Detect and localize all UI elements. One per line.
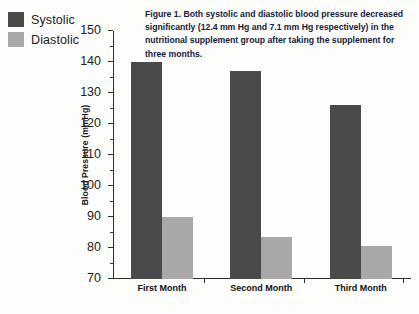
bar-systolic-2 bbox=[230, 71, 261, 279]
y-tick-major: 90 bbox=[108, 216, 113, 217]
bar-systolic-1 bbox=[131, 62, 162, 279]
bar-diastolic-2 bbox=[261, 237, 292, 279]
y-tick-major: 150 bbox=[108, 30, 113, 31]
x-axis-group-label: Third Month bbox=[335, 283, 387, 293]
y-tick-major: 140 bbox=[108, 61, 113, 62]
y-tick-major: 70 bbox=[108, 278, 113, 279]
y-tick-minor bbox=[110, 139, 113, 140]
y-tick-minor bbox=[110, 201, 113, 202]
y-tick-label: 110 bbox=[81, 147, 101, 161]
y-tick-label: 130 bbox=[80, 85, 101, 99]
y-axis-line bbox=[113, 31, 114, 279]
y-tick-minor bbox=[110, 77, 113, 78]
x-tick bbox=[204, 279, 205, 283]
x-tick bbox=[403, 279, 404, 283]
legend-label-systolic: Systolic bbox=[31, 13, 75, 27]
y-tick-label: 90 bbox=[87, 209, 101, 223]
y-tick-label: 120 bbox=[80, 116, 101, 130]
y-tick-label: 80 bbox=[87, 240, 101, 254]
bar-systolic-3 bbox=[330, 105, 361, 279]
y-tick-minor bbox=[110, 108, 113, 109]
y-tick-major: 110 bbox=[108, 154, 113, 155]
x-axis-group-label: Second Month bbox=[230, 283, 292, 293]
y-tick-minor bbox=[110, 170, 113, 171]
chart-plot-area: 708090100110120130140150 bbox=[113, 31, 411, 279]
y-tick-minor bbox=[110, 232, 113, 233]
y-tick-label: 140 bbox=[80, 54, 101, 68]
x-axis-group-label: First Month bbox=[138, 283, 187, 293]
y-tick-major: 100 bbox=[108, 185, 113, 186]
y-tick-label: 70 bbox=[87, 271, 101, 285]
y-tick-label: 150 bbox=[80, 23, 101, 37]
y-tick-label: 100 bbox=[80, 178, 101, 192]
x-tick bbox=[304, 279, 305, 283]
legend-swatch-systolic-icon bbox=[8, 12, 24, 27]
legend-swatch-diastolic-icon bbox=[8, 32, 24, 47]
legend-label-diastolic: Diastolic bbox=[31, 33, 79, 47]
bar-diastolic-1 bbox=[162, 217, 193, 279]
y-tick-major: 80 bbox=[108, 247, 113, 248]
y-tick-major: 120 bbox=[108, 123, 113, 124]
bar-diastolic-3 bbox=[361, 246, 392, 279]
y-tick-minor bbox=[110, 46, 113, 47]
y-tick-minor bbox=[110, 263, 113, 264]
y-tick-major: 130 bbox=[108, 92, 113, 93]
